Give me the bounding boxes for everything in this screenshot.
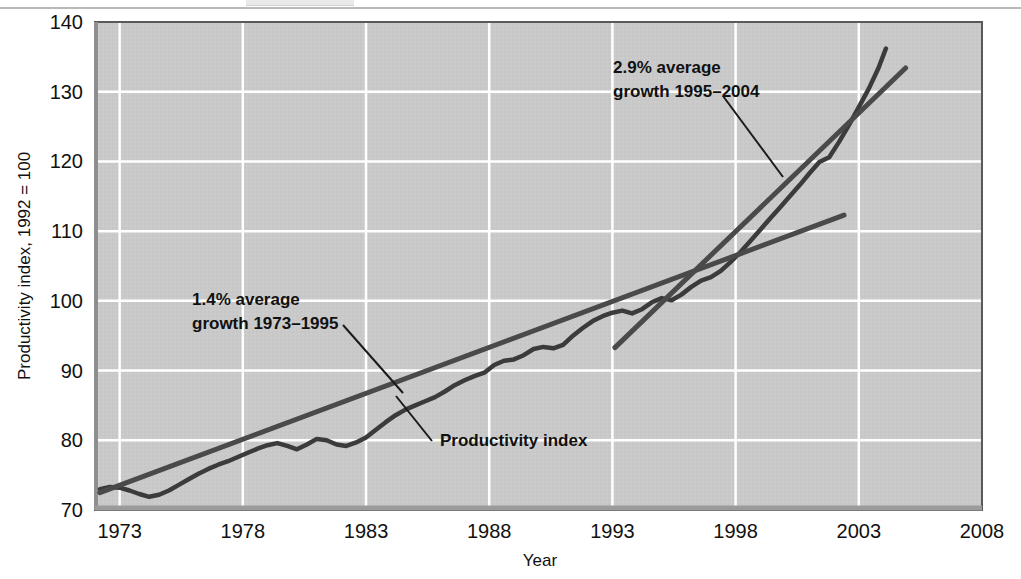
y-axis-title: Productivity index, 1992 = 100 <box>15 152 34 380</box>
y-tick-label: 80 <box>61 429 83 451</box>
y-tick-label: 110 <box>51 220 83 242</box>
x-axis-tick-labels: 19731978198319881993199820032008 <box>97 520 1004 542</box>
x-tick-label: 1983 <box>344 520 389 542</box>
y-tick-label: 100 <box>50 290 83 312</box>
chart-figure: 708090100110120130140 197319781983198819… <box>0 0 1021 579</box>
x-tick-label: 1998 <box>713 520 758 542</box>
x-tick-label: 1993 <box>590 520 635 542</box>
y-tick-label: 70 <box>61 499 83 521</box>
y-axis-tick-labels: 708090100110120130140 <box>50 11 83 521</box>
x-axis-title: Year <box>523 551 558 570</box>
x-tick-label: 2003 <box>837 520 882 542</box>
y-tick-label: 120 <box>50 150 83 172</box>
y-tick-label: 130 <box>50 81 83 103</box>
productivity-index-annotation: Productivity index <box>440 431 588 450</box>
x-tick-label: 1978 <box>221 520 266 542</box>
y-tick-label: 90 <box>61 360 83 382</box>
y-tick-label: 140 <box>50 11 83 33</box>
x-tick-label: 1973 <box>97 520 142 542</box>
x-tick-label: 2008 <box>960 520 1005 542</box>
productivity-line-chart: 708090100110120130140 197319781983198819… <box>0 0 1021 579</box>
x-tick-label: 1988 <box>467 520 512 542</box>
